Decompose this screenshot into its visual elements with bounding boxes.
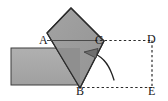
vertex-label-c: C: [95, 34, 103, 46]
vertex-label-d: D: [147, 33, 156, 45]
geometry-figure: A B C D E: [0, 0, 168, 101]
vertex-label-b: B: [76, 85, 84, 97]
vertex-label-a: A: [39, 34, 48, 46]
vertex-label-e: E: [148, 85, 155, 97]
rotation-arrow-curve: [95, 54, 114, 80]
